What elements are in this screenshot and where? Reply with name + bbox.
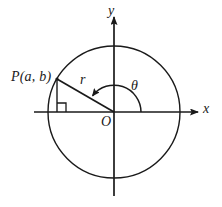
point-p-marker [55, 77, 58, 80]
origin-label: O [101, 115, 111, 129]
angle-theta-label: θ [131, 79, 138, 93]
point-p-label: P(a, b) [11, 70, 51, 84]
right-angle-marker [57, 103, 66, 112]
y-axis-label: y [108, 4, 114, 18]
figure-canvas [0, 0, 222, 207]
x-axis-label: x [203, 102, 209, 116]
radius-label: r [80, 73, 85, 87]
math-figure-unit-circle: P(a, b) r θ x y O [0, 0, 222, 207]
